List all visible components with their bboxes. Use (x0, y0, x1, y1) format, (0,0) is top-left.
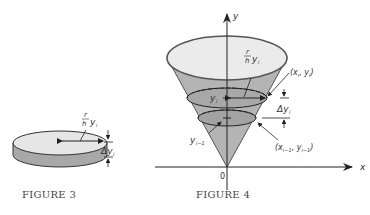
cone-radius-label-var: y (251, 54, 258, 64)
yim1-label: y (189, 135, 196, 145)
yi-label: y (209, 93, 216, 103)
cone-radius-label-den: h (245, 57, 249, 65)
delta-label: Δy (276, 104, 289, 114)
point-i-label: (xi, yi) (290, 68, 314, 78)
disk-radius-label-var: y (89, 117, 96, 127)
delta-label-sub: i (289, 109, 291, 115)
x-axis-label: x (359, 162, 366, 172)
y-axis-label: y (232, 11, 239, 21)
figure-4-caption: FIGURE 4 (196, 189, 250, 200)
point-im1-leader (258, 123, 278, 140)
yim1-label-sub: i−1 (196, 140, 205, 146)
point-im1-label: (xi−1, yi−1) (275, 143, 313, 153)
disk-radius-label-den: h (82, 120, 86, 128)
diagram-canvas: r h y i Δy i FIGURE 3 y x 0 (0, 0, 370, 215)
figure-4-cone: y x 0 r h y i y i y i−1 (xi, yi) (xi−1, … (155, 11, 366, 200)
disk-thickness-label: Δy (100, 146, 113, 156)
figure-3-caption: FIGURE 3 (22, 189, 76, 200)
disk-top (13, 131, 107, 155)
disk-radius-label-num: r (84, 111, 88, 119)
disk-radius-label-sub: i (96, 122, 98, 128)
figure-3-disk: r h y i Δy i FIGURE 3 (13, 111, 115, 200)
origin-label: 0 (220, 172, 225, 181)
disk-thickness-sub: i (113, 151, 115, 157)
